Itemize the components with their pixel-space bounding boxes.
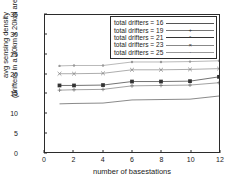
legend-item-marker: × [188,42,192,48]
x-axis-tick-mark [73,150,74,153]
legend-item-swatch [166,19,214,26]
x-axis-tick-mark [220,150,221,153]
legend-item-marker: · [189,49,191,55]
legend-item-label: total drifters = 21 [114,34,163,41]
x-axis-tick-mark [102,150,103,153]
legend-item-swatch: · [166,49,214,56]
x-axis-tick-mark [190,150,191,153]
legend-item-label: total drifters = 16 [114,19,163,26]
x-axis-tick-mark [44,150,45,153]
legend-item: total drifters = 16 [114,19,214,26]
x-axis-tick-label: 6 [130,156,134,163]
chart-figure: 05101520253035 avg sensing density (drif… [0,0,235,187]
x-axis-tick-label: 12 [216,156,224,163]
x-axis-tick-label: 4 [101,156,105,163]
x-axis-tick-label: 10 [187,156,195,163]
x-axis-tick-mark [161,150,162,153]
legend-item-swatch: ▪ [166,34,214,41]
legend-item-marker: + [188,27,192,33]
x-axis-label: number of basestations [44,167,220,176]
legend-item-swatch: + [166,27,214,34]
x-axis-tick-label: 2 [71,156,75,163]
legend: total drifters = 16total drifters = 19+t… [110,16,217,59]
legend-item-marker: ▪ [189,34,191,40]
legend-item: total drifters = 25· [114,49,214,56]
legend-item: total drifters = 23× [114,41,214,48]
x-axis-tick-label: 8 [159,156,163,163]
legend-item: total drifters = 19+ [114,26,214,33]
x-axis-tick-mark [132,150,133,153]
legend-item-label: total drifters = 23 [114,41,163,48]
legend-item-label: total drifters = 19 [114,27,163,34]
legend-item-swatch: × [166,41,214,48]
legend-item-label: total drifters = 25 [114,49,163,56]
legend-item: total drifters = 21▪ [114,34,214,41]
x-axis-tick-label: 0 [42,156,46,163]
